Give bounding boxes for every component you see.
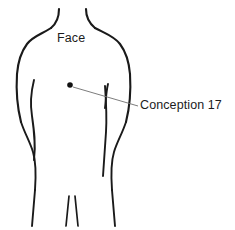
- conception-17-label: Conception 17: [140, 98, 222, 112]
- neck-right-line: [86, 9, 95, 28]
- right-outer-arm-line: [126, 74, 130, 122]
- neck-left-line: [51, 9, 59, 28]
- right-shoulder-line: [95, 28, 130, 74]
- left-leg-outer-line: [32, 190, 35, 226]
- left-shoulder-line: [17, 28, 51, 74]
- acupuncture-diagram: Face Conception 17: [0, 0, 235, 230]
- face-label: Face: [57, 31, 85, 45]
- right-leg-outer-line: [112, 190, 115, 226]
- conception-17-point-marker: [67, 82, 73, 88]
- left-inner-thigh-line: [66, 196, 69, 226]
- right-inner-thigh-line: [75, 196, 78, 226]
- right-waist-hip-line: [111, 122, 126, 190]
- right-torso-side-line: [103, 86, 106, 176]
- body-outline-illustration: [0, 0, 235, 230]
- left-outer-arm-line: [17, 74, 21, 122]
